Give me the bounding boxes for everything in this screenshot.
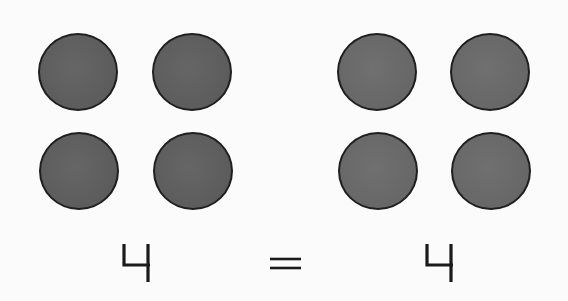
right-dot-3 — [338, 132, 418, 210]
left-dot-2 — [152, 33, 232, 111]
right-count-label: 4 — [423, 242, 457, 286]
equals-sign-icon — [268, 254, 304, 272]
left-count-label: 4 — [120, 242, 154, 286]
left-dot-1 — [38, 33, 118, 111]
equals-operator: = — [268, 254, 304, 272]
numeral-four-icon — [120, 242, 154, 286]
right-dot-2 — [450, 33, 530, 111]
left-dot-3 — [39, 132, 119, 210]
right-dot-1 — [337, 33, 417, 111]
diagram-canvas: 4 = 4 — [0, 0, 568, 301]
numeral-four-icon — [423, 242, 457, 286]
right-dot-4 — [451, 132, 531, 210]
left-dot-4 — [153, 132, 233, 210]
